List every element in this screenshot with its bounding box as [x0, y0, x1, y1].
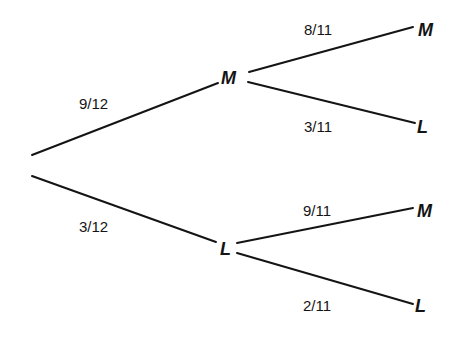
edge-M-to-L	[248, 82, 415, 123]
prob-label-first-M: 9/12	[79, 96, 108, 112]
prob-label-LL: 2/11	[303, 298, 331, 314]
node-LM: M	[417, 202, 432, 220]
node-MM: M	[418, 21, 433, 39]
node-first-M: M	[221, 69, 236, 87]
prob-label-MM: 8/11	[304, 22, 332, 38]
tree-edges	[0, 0, 455, 338]
node-LL: L	[415, 297, 426, 315]
node-ML: L	[417, 118, 428, 136]
prob-label-ML: 3/11	[304, 119, 332, 135]
node-first-L: L	[220, 240, 231, 258]
prob-label-first-L: 3/12	[79, 219, 108, 235]
edge-root-to-L	[32, 176, 216, 242]
edge-root-to-M	[32, 83, 218, 155]
prob-label-LM: 9/11	[303, 203, 331, 219]
